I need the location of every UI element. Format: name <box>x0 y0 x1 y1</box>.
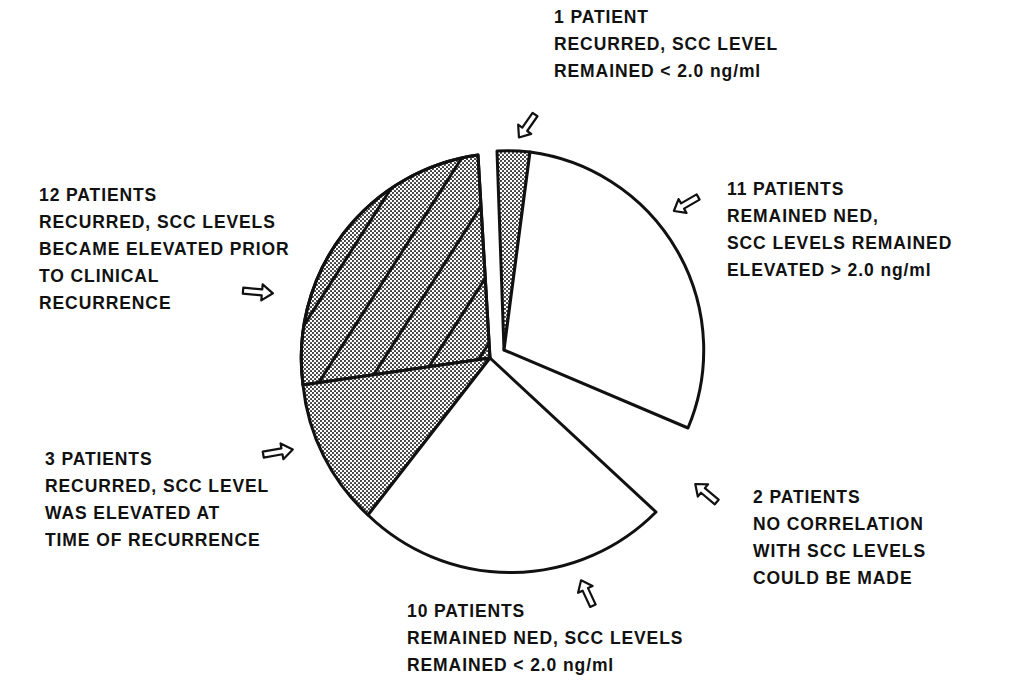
label-3-patients: 3 PATIENTS RECURRED, SCC LEVEL WAS ELEVA… <box>45 446 269 554</box>
arrow-icon-1-patient <box>512 110 541 142</box>
arrow-icon-2-patients <box>690 478 722 508</box>
label-2-patients: 2 PATIENTS NO CORRELATION WITH SCC LEVEL… <box>753 484 926 592</box>
label-1-patient: 1 PATIENT RECURRED, SCC LEVEL REMAINED <… <box>554 4 778 85</box>
label-10-patients: 10 PATIENTS REMAINED NED, SCC LEVELS REM… <box>407 598 683 679</box>
label-11-patients: 11 PATIENTS REMAINED NED, SCC LEVELS REM… <box>727 176 952 284</box>
arrow-icon-11-patients <box>670 190 702 218</box>
label-12-patients: 12 PATIENTS RECURRED, SCC LEVELS BECAME … <box>39 182 290 317</box>
slice-11-patients <box>504 152 704 428</box>
pie-chart <box>0 0 1023 698</box>
